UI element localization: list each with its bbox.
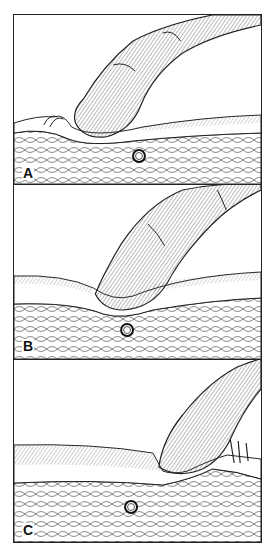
panel-b: B: [14, 184, 261, 360]
panel-c-drawing: [14, 359, 261, 542]
panel-b-drawing: [14, 184, 261, 359]
panel-c: C: [14, 359, 261, 542]
medical-illustration: A B: [13, 14, 262, 543]
panel-label-a: A: [22, 166, 34, 180]
panel-label-b: B: [22, 339, 34, 353]
panel-label-c: C: [22, 523, 34, 537]
panel-a: A: [14, 15, 261, 185]
panel-a-drawing: [14, 15, 261, 184]
